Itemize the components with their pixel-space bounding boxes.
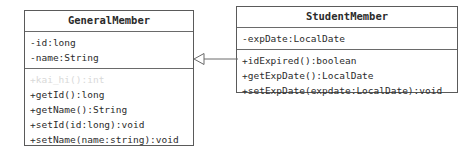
class-name-general-member: GeneralMember [25, 11, 193, 31]
method-row: +getName():String [25, 102, 193, 117]
methods-compartment-student-member: +idExpired():boolean +getExpDate():Local… [237, 49, 457, 101]
attribute-row: -expDate:LocalDate [237, 31, 457, 46]
inheritance-generalization-arrow[interactable] [192, 48, 238, 70]
class-name-student-member: StudentMember [237, 7, 457, 27]
class-box-general-member[interactable]: GeneralMember -id:long -name:String +kai… [24, 10, 194, 146]
uml-class-diagram-canvas: GeneralMember -id:long -name:String +kai… [0, 0, 474, 152]
method-row: +setName(name:string):void [25, 132, 193, 147]
method-row: +idExpired():boolean [237, 53, 457, 68]
attributes-compartment-student-member: -expDate:LocalDate [237, 27, 457, 49]
method-row: +getId():long [25, 87, 193, 102]
methods-compartment-general-member: +kai_hi():int +getId():long +getName():S… [25, 68, 193, 150]
method-row-disabled: +kai_hi():int [25, 72, 193, 87]
method-row: +setExpDate(expdate:LocalDate):void [237, 83, 457, 98]
method-row: +getExpDate():LocalDate [237, 68, 457, 83]
attributes-compartment-general-member: -id:long -name:String [25, 31, 193, 68]
class-box-student-member[interactable]: StudentMember -expDate:LocalDate +idExpi… [236, 6, 458, 93]
method-row: +setId(id:long):void [25, 117, 193, 132]
hollow-triangle-icon [194, 54, 204, 65]
attribute-row: -name:String [25, 50, 193, 65]
attribute-row: -id:long [25, 35, 193, 50]
